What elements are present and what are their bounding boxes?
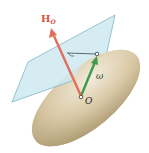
tip-point bbox=[95, 52, 99, 56]
h-label: HO bbox=[41, 13, 56, 25]
diagram-canvas: HO ω O bbox=[0, 0, 149, 153]
origin-point bbox=[79, 95, 83, 99]
omega-label: ω bbox=[96, 71, 104, 81]
origin-label: O bbox=[85, 96, 93, 106]
